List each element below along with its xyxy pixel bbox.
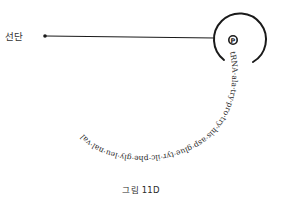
chain-text: tRNA·ala·try·pro·try·his·asp·glue·tyr·il… — [78, 51, 239, 163]
amino-acid-chain: tRNA·ala·try·pro·try·his·asp·glue·tyr·il… — [78, 51, 239, 163]
figure-caption: 그림 11D — [0, 183, 282, 195]
figure-11d: 선단 P tRNA·ala·try·pro·try·his·asp·glue·t… — [0, 0, 282, 212]
svg-text:P: P — [231, 37, 236, 45]
ribosome-ring — [214, 13, 266, 62]
connector-line — [46, 36, 215, 38]
p-site-icon: P — [229, 36, 237, 45]
diagram-canvas: P tRNA·ala·try·pro·try·his·asp·glue·tyr·… — [0, 0, 282, 212]
